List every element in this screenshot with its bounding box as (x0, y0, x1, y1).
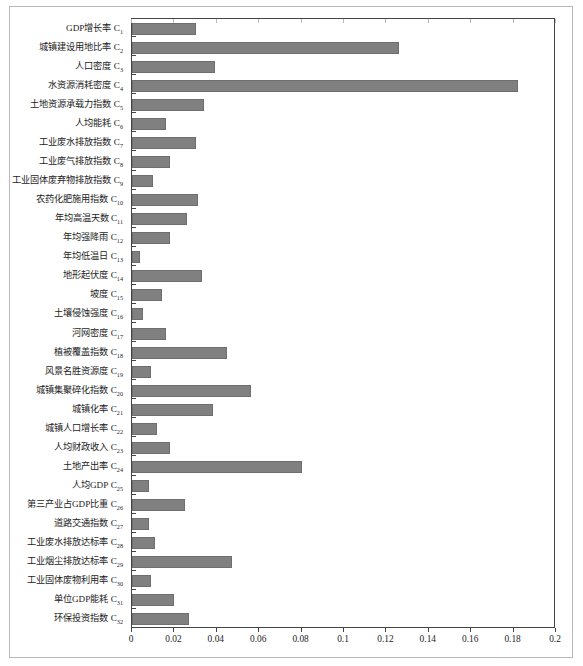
y-axis-tick (132, 494, 136, 495)
y-axis-tick (132, 55, 136, 56)
bar (132, 232, 170, 244)
bar (132, 575, 151, 587)
y-axis-tick (132, 227, 136, 228)
x-axis-tick-top (258, 19, 259, 23)
bar-row (132, 496, 554, 515)
y-axis-tick (132, 93, 136, 94)
x-axis-tick-top (173, 19, 174, 23)
x-axis-tick (428, 628, 429, 632)
bar-row (132, 76, 554, 95)
x-axis-tick-label: 0.06 (238, 634, 278, 644)
y-axis-tick (132, 303, 136, 304)
x-axis-tick-label: 0.08 (281, 634, 321, 644)
y-axis-tick (132, 322, 136, 323)
x-axis-tick-label: 0.2 (535, 634, 575, 644)
y-axis-label: 单位GDP能耗 C31 (0, 594, 123, 608)
x-axis-tick-label: 0.1 (323, 634, 363, 644)
bar (132, 518, 149, 530)
x-axis-tick-label: 0.14 (408, 634, 448, 644)
x-axis-tick-label: 0.16 (450, 634, 490, 644)
bar-row (132, 419, 554, 438)
bar (132, 289, 162, 301)
x-axis-tick-top (555, 19, 556, 23)
y-axis-tick (132, 341, 136, 342)
bar-chart-figure: GDP增长率 C1城镇建设用地比率 C2人口密度 C3水资源消耗密度 C4土地资… (0, 0, 583, 666)
bar (132, 499, 185, 511)
y-axis-tick (132, 417, 136, 418)
bar (132, 23, 196, 35)
y-axis-tick (132, 436, 136, 437)
y-axis-label: 水资源消耗密度 C4 (0, 80, 123, 94)
bar (132, 137, 196, 149)
bar-row (132, 248, 554, 267)
y-axis-label: 年均高温天数 C11 (0, 213, 123, 227)
bar-row (132, 457, 554, 476)
y-axis-label: 工业固体废弃物排放指数 C9 (0, 175, 123, 189)
bar-row (132, 172, 554, 191)
y-axis-label: 工业废水排放指数 C7 (0, 137, 123, 151)
y-axis-label: 土地资源承载力指数 C5 (0, 99, 123, 113)
bar (132, 251, 140, 263)
x-axis-tick-label: 0.18 (493, 634, 533, 644)
y-axis-label: GDP增长率 C1 (0, 23, 123, 37)
x-axis-tick (301, 628, 302, 632)
y-axis-label: 工业烟尘排放达标率 C29 (0, 556, 123, 570)
bar-row (132, 572, 554, 591)
y-axis-label: 城镇建设用地比率 C2 (0, 42, 123, 56)
x-axis-tick (216, 628, 217, 632)
y-axis-tick (132, 284, 136, 285)
bar (132, 270, 202, 282)
bar-row (132, 324, 554, 343)
y-axis-label: 城镇集聚碎化指数 C20 (0, 385, 123, 399)
bar (132, 613, 189, 625)
y-axis-labels: GDP增长率 C1城镇建设用地比率 C2人口密度 C3水资源消耗密度 C4土地资… (0, 18, 127, 628)
y-axis-tick (132, 513, 136, 514)
bar-row (132, 229, 554, 248)
y-axis-label: 河网密度 C17 (0, 328, 123, 342)
x-axis-tick-label: 0.02 (153, 634, 193, 644)
bar (132, 347, 227, 359)
bar-row (132, 286, 554, 305)
y-axis-tick (132, 379, 136, 380)
bar (132, 156, 170, 168)
y-axis-label: 人口密度 C3 (0, 61, 123, 75)
bar-row (132, 610, 554, 629)
y-axis-label: 城镇人口增长率 C22 (0, 423, 123, 437)
bar-row (132, 381, 554, 400)
y-axis-label: 环保投资指数 C32 (0, 613, 123, 627)
bar (132, 537, 155, 549)
plot-area (131, 18, 555, 628)
y-axis-label: 道路交通指数 C27 (0, 518, 123, 532)
x-axis-tick (513, 628, 514, 632)
y-axis-tick (132, 208, 136, 209)
bar (132, 118, 166, 130)
bar-row (132, 114, 554, 133)
bar-row (132, 152, 554, 171)
bar-row (132, 534, 554, 553)
y-axis-label: 植被覆盖指数 C18 (0, 347, 123, 361)
y-axis-tick (132, 398, 136, 399)
bar-row (132, 343, 554, 362)
y-axis-tick (132, 589, 136, 590)
y-axis-tick (132, 150, 136, 151)
y-axis-label: 坡度 C15 (0, 289, 123, 303)
y-axis-label: 年均低温日 C13 (0, 251, 123, 265)
x-axis-tick (385, 628, 386, 632)
x-axis-tick-top (343, 19, 344, 23)
bar-row (132, 553, 554, 572)
x-axis-tick-top (216, 19, 217, 23)
y-axis-tick (132, 608, 136, 609)
y-axis-tick (132, 189, 136, 190)
y-axis-tick (132, 627, 136, 628)
y-axis-tick (132, 532, 136, 533)
bar-row (132, 362, 554, 381)
bar (132, 328, 166, 340)
y-axis-label: 工业固体废物利用率 C30 (0, 575, 123, 589)
x-axis-tick (131, 628, 132, 632)
y-axis-tick (132, 551, 136, 552)
y-axis-tick (132, 570, 136, 571)
bar-row (132, 57, 554, 76)
y-axis-tick (132, 36, 136, 37)
y-axis-tick (132, 455, 136, 456)
bar-row (132, 591, 554, 610)
